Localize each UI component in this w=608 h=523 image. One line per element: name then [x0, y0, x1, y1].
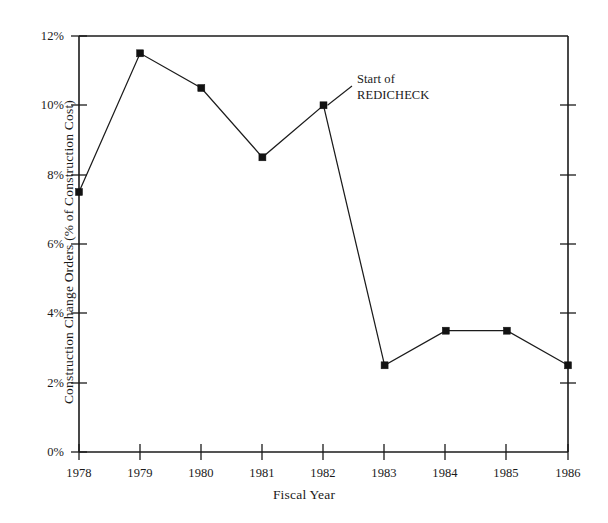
- data-point-1980: [198, 85, 205, 92]
- data-point-1985: [503, 327, 510, 334]
- annotation-line-1: Start of: [357, 72, 429, 88]
- ytick-label-12: 12%: [14, 29, 64, 44]
- xtick-label-1982: 1982: [293, 466, 353, 481]
- ytick-label-0: 0%: [22, 445, 64, 460]
- data-point-1981: [259, 154, 266, 161]
- xtick-label-1979: 1979: [110, 466, 170, 481]
- annotation-leader-line: [328, 86, 353, 105]
- data-markers: [76, 50, 572, 369]
- axis-frame: [79, 36, 568, 452]
- chart-figure: 0% 2% 4% 6% 8% 10% 12% 1978 1979 1980 19…: [0, 0, 608, 523]
- xtick-label-1984: 1984: [415, 466, 475, 481]
- data-point-1983: [381, 362, 388, 369]
- data-point-1982: [320, 102, 327, 109]
- y-axis-label: Construction Change Orders (% of Constru…: [61, 87, 77, 417]
- annotation-start-of-redicheck: Start of REDICHECK: [357, 72, 429, 103]
- annotation-line-2: REDICHECK: [357, 88, 429, 104]
- xtick-label-1985: 1985: [476, 466, 536, 481]
- data-point-1986: [565, 362, 572, 369]
- data-point-1984: [442, 327, 449, 334]
- xtick-label-1986: 1986: [538, 466, 598, 481]
- data-point-1979: [137, 50, 144, 57]
- chart-plot-area: [0, 0, 608, 523]
- xtick-label-1981: 1981: [232, 466, 292, 481]
- data-series-line: [79, 53, 568, 365]
- x-axis-label: Fiscal Year: [0, 487, 608, 503]
- ytick-label-10: 10%: [14, 98, 64, 113]
- xtick-label-1983: 1983: [354, 466, 414, 481]
- ytick-label-6: 6%: [22, 237, 64, 252]
- ytick-label-8: 8%: [22, 168, 64, 183]
- xtick-label-1978: 1978: [49, 466, 109, 481]
- ytick-label-2: 2%: [22, 376, 64, 391]
- xtick-label-1980: 1980: [171, 466, 231, 481]
- ytick-label-4: 4%: [22, 306, 64, 321]
